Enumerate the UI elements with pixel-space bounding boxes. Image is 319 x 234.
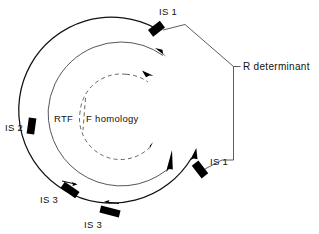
f-homology-label: F homology	[86, 113, 139, 124]
middle-circle-arrowhead-top	[155, 48, 167, 57]
is2-left-marker	[27, 118, 37, 135]
is3-upper-label: IS 3	[40, 194, 58, 205]
r-determinant-label: R determinant	[243, 61, 310, 72]
plasmid-diagram: IS 1 IS 1 IS 2 IS 3 IS 3 RTF F homology …	[0, 0, 319, 234]
is3-lower-marker	[99, 206, 120, 218]
r-determinant-bracket	[163, 25, 241, 170]
middle-circle-arrowhead-bottom	[166, 150, 173, 172]
outer-backbone-circle	[19, 17, 192, 203]
is1-right-marker	[192, 161, 208, 179]
is1-top-label: IS 1	[159, 6, 177, 17]
figure-container: IS 1 IS 1 IS 2 IS 3 IS 3 RTF F homology …	[0, 0, 319, 234]
is3-lower-label: IS 3	[84, 219, 102, 230]
is1-right-label: IS 1	[210, 156, 228, 167]
is2-left-label: IS 2	[5, 122, 23, 133]
is1-top-marker	[148, 21, 165, 37]
inner-dashed-arrowhead-bottom	[148, 142, 154, 153]
outer-circle-arrowhead	[190, 148, 198, 160]
rtf-label: RTF	[54, 113, 73, 124]
middle-circle-upper-arc	[48, 42, 121, 110]
inner-dashed-arrowhead-top	[142, 71, 154, 78]
inner-dashed-upper-arc	[80, 74, 126, 111]
inner-dashed-upper-right-arc	[126, 74, 148, 82]
